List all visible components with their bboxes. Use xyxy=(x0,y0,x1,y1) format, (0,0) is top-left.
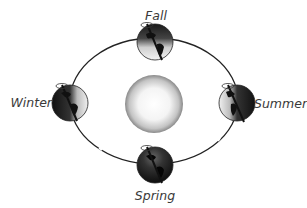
earth-spring xyxy=(137,146,173,184)
seasons-orbit-diagram: Fall Summer Spring Winter xyxy=(0,0,307,208)
label-spring: Spring xyxy=(135,188,175,203)
earth-summer xyxy=(219,84,255,123)
sun xyxy=(125,75,183,133)
earth-winter xyxy=(52,84,88,122)
label-winter: Winter xyxy=(11,95,53,110)
earth-fall xyxy=(137,23,173,61)
label-fall: Fall xyxy=(145,8,167,23)
label-summer: Summer xyxy=(254,96,307,111)
